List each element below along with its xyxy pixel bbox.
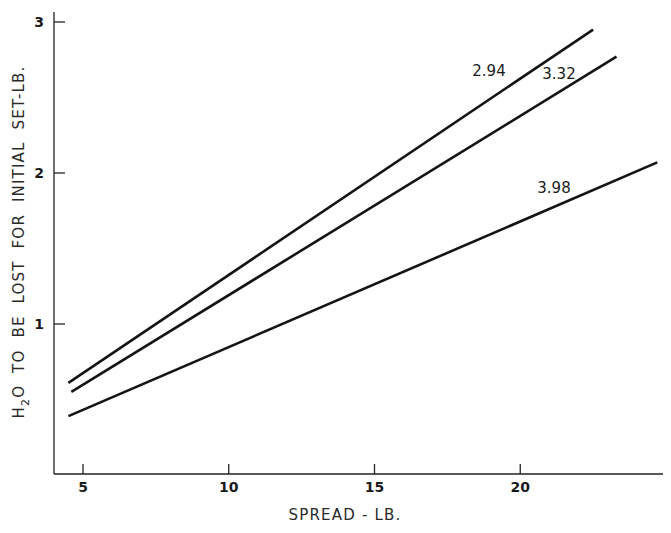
y-tick-label: 3 bbox=[34, 14, 44, 30]
y-axis-title-rest: O TO BE LOST FOR INITIAL SET-LB. bbox=[10, 65, 28, 397]
x-ticks: 5101520 bbox=[78, 464, 530, 495]
series-line-2-94 bbox=[68, 30, 593, 383]
y-axis-title-subscript: 2 bbox=[19, 398, 32, 406]
x-tick-label: 15 bbox=[365, 479, 384, 495]
x-tick-label: 10 bbox=[219, 479, 239, 495]
series-lines bbox=[68, 30, 657, 417]
series-label-3-98: 3.98 bbox=[537, 179, 570, 197]
y-axis-title-h: H bbox=[10, 406, 28, 418]
y-axis-title: H2O TO BE LOST FOR INITIAL SET-LB. bbox=[10, 65, 32, 418]
line-chart: 5101520 123 2.943.323.98 SPREAD - LB. H2… bbox=[0, 0, 671, 533]
series-line-3-32 bbox=[71, 57, 616, 392]
series-label-2-94: 2.94 bbox=[472, 62, 505, 80]
x-tick-label: 20 bbox=[511, 479, 531, 495]
y-ticks: 123 bbox=[34, 14, 65, 332]
y-tick-label: 2 bbox=[34, 165, 44, 181]
y-tick-label: 1 bbox=[34, 316, 44, 332]
series-line-3-98 bbox=[68, 162, 657, 416]
series-labels: 2.943.323.98 bbox=[472, 62, 575, 197]
x-axis-title: SPREAD - LB. bbox=[288, 506, 401, 524]
x-tick-label: 5 bbox=[78, 479, 88, 495]
series-label-3-32: 3.32 bbox=[542, 65, 575, 83]
